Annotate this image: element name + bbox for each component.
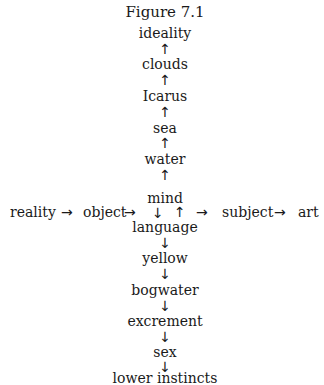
node-yellow: yellow — [142, 250, 188, 266]
node-language: language — [132, 219, 197, 235]
up-arrow-icon: ↑ — [159, 135, 171, 151]
node-ideality: ideality — [139, 25, 192, 41]
node-water: water — [145, 151, 186, 167]
up-arrow-icon: ↑ — [159, 104, 171, 120]
up-arrow-icon: ↑ — [159, 41, 171, 57]
up-arrow-icon: ↑ — [159, 167, 171, 183]
node-bogwater: bogwater — [131, 282, 198, 298]
down-arrow-icon: ↓ — [159, 266, 171, 282]
figure-title: Figure 7.1 — [125, 4, 204, 20]
node-reality: reality — [10, 204, 56, 220]
right-arrow-icon: → — [274, 204, 286, 220]
node-excrement: excrement — [127, 313, 202, 329]
node-object: object — [83, 204, 126, 220]
right-arrow-icon: → — [196, 204, 208, 220]
down-arrow-icon: ↓ — [159, 329, 171, 345]
right-arrow-icon: → — [124, 204, 136, 220]
node-icarus: Icarus — [143, 88, 188, 104]
node-subject: subject — [222, 204, 273, 220]
right-arrow-icon: → — [61, 204, 73, 220]
node-art: art — [298, 204, 319, 220]
down-arrow-icon: ↓ — [159, 235, 171, 251]
node-lower-instincts: lower instincts — [113, 370, 218, 385]
up-arrow-icon: ↑ — [159, 72, 171, 88]
node-sea: sea — [153, 120, 177, 136]
down-arrow-icon: ↓ — [159, 298, 171, 314]
node-clouds: clouds — [142, 56, 188, 72]
node-sex: sex — [153, 344, 176, 360]
up-arrow-icon: ↑ — [174, 204, 186, 220]
